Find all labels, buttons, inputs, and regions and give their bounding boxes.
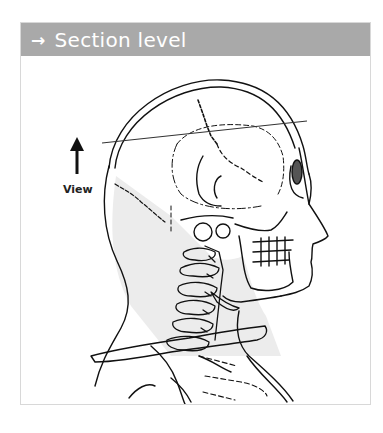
anatomy-illustration: View [21,56,370,404]
head-neck-drawing [21,56,370,404]
panel-header: → Section level [21,23,370,56]
view-label: View [63,183,93,196]
arrow-right-icon: → [31,30,46,50]
panel-title: Section level [55,28,187,52]
section-level-panel: → Section level [20,22,371,405]
view-arrow-icon [70,137,84,174]
